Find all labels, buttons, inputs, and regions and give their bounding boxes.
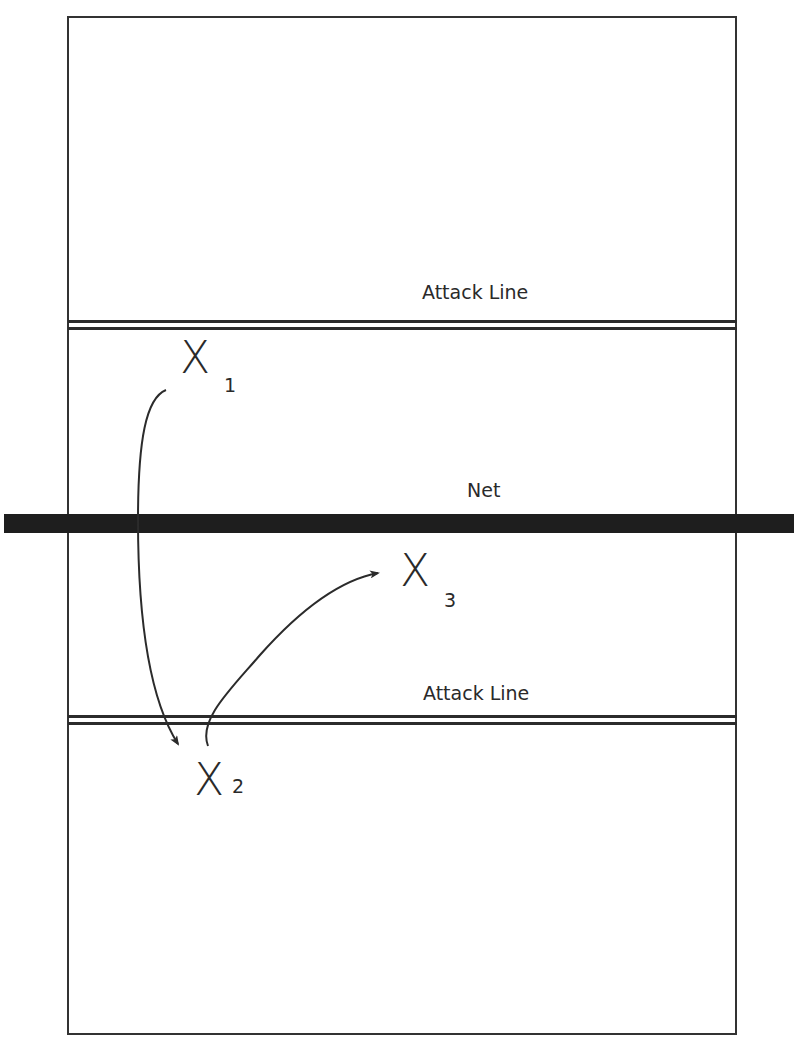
bottom-attack-line-label: Attack Line <box>423 684 529 703</box>
player-1-marker: X 1 <box>180 336 210 380</box>
player-1-x: X <box>180 336 210 380</box>
player-1-number: 1 <box>224 376 236 395</box>
player-2-x: X <box>194 758 224 802</box>
bottom-attack-line <box>68 715 737 725</box>
player-3-number: 3 <box>444 591 456 610</box>
top-attack-line <box>68 320 737 330</box>
top-attack-line-label: Attack Line <box>422 283 528 302</box>
net-label: Net <box>467 481 500 500</box>
player-2-marker: X 2 <box>194 758 224 802</box>
player-3-marker: X 3 <box>400 549 430 593</box>
net <box>4 514 794 533</box>
player-2-number: 2 <box>232 777 244 796</box>
player-3-x: X <box>400 549 430 593</box>
